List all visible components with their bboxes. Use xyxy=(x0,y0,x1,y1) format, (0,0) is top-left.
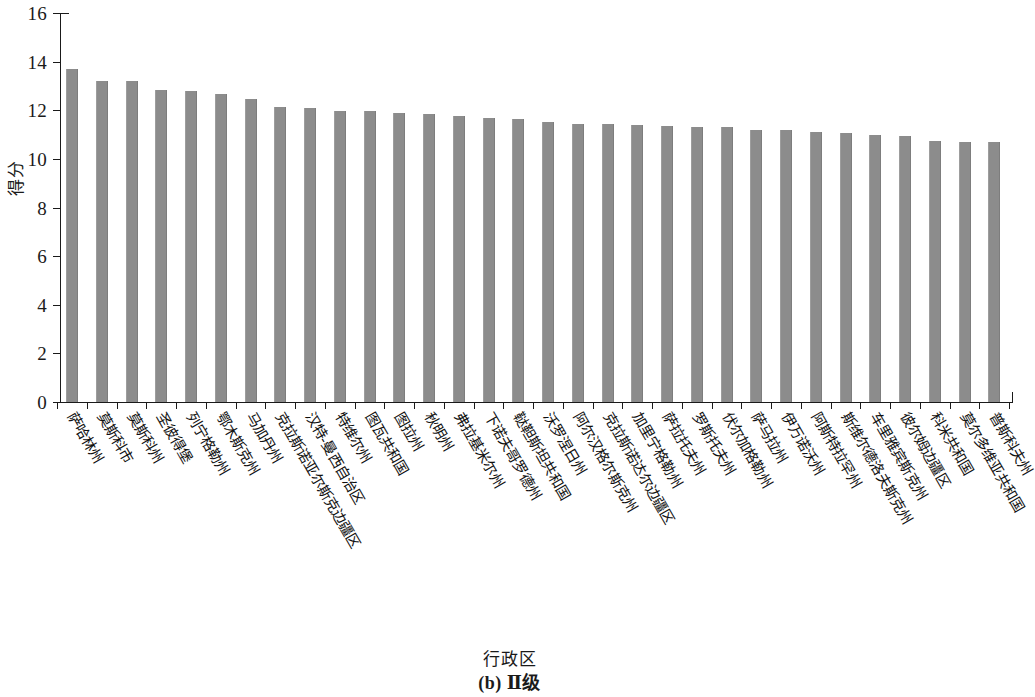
x-tick-mark xyxy=(533,402,534,409)
bar xyxy=(542,122,554,402)
bar xyxy=(572,124,584,402)
x-tick-mark xyxy=(979,402,980,409)
x-tick-mark xyxy=(295,402,296,409)
bar xyxy=(215,94,227,402)
x-tick-mark xyxy=(712,402,713,409)
y-tick-label: 16 xyxy=(27,4,47,23)
bar xyxy=(899,136,911,402)
x-tick-mark xyxy=(771,402,772,409)
bar xyxy=(453,116,465,402)
x-axis-title: 行政区 xyxy=(0,645,1019,670)
x-tick-mark xyxy=(920,402,921,409)
bar xyxy=(810,132,822,402)
y-tick-label: 6 xyxy=(37,247,47,266)
bar xyxy=(929,141,941,402)
bar xyxy=(661,126,673,402)
bar xyxy=(840,133,852,402)
y-tick-label: 12 xyxy=(27,101,47,120)
x-tick-mark xyxy=(741,402,742,409)
x-tick-mark xyxy=(57,402,58,409)
x-tick-mark xyxy=(236,402,237,409)
x-tick-mark xyxy=(265,402,266,409)
x-tick-mark xyxy=(176,402,177,409)
bar xyxy=(304,108,316,402)
x-tick-mark xyxy=(1009,402,1010,409)
bar xyxy=(483,118,495,402)
bar xyxy=(602,124,614,402)
x-tick-mark xyxy=(682,402,683,409)
bar xyxy=(512,119,524,402)
bar xyxy=(66,69,78,402)
bar xyxy=(959,142,971,402)
y-tick-label: 0 xyxy=(37,393,47,412)
x-tick-mark xyxy=(146,402,147,409)
x-tick-mark xyxy=(206,402,207,409)
y-tick-label: 2 xyxy=(37,344,47,363)
x-tick-mark xyxy=(801,402,802,409)
x-axis-line xyxy=(60,402,1013,403)
plot-area xyxy=(60,13,1012,402)
figure-caption: (b) Ⅱ级 xyxy=(0,668,1019,694)
x-tick-mark xyxy=(384,402,385,409)
bar xyxy=(364,111,376,402)
x-tick-mark xyxy=(325,402,326,409)
y-tick-label: 14 xyxy=(27,53,47,72)
y-tick-label: 10 xyxy=(27,150,47,169)
bar xyxy=(126,81,138,402)
bar xyxy=(155,90,167,402)
x-tick-mark xyxy=(622,402,623,409)
x-tick-mark xyxy=(563,402,564,409)
bar xyxy=(393,113,405,402)
bar xyxy=(988,142,1000,402)
bar xyxy=(334,111,346,402)
x-tick-mark xyxy=(87,402,88,409)
bar xyxy=(750,130,762,402)
bar xyxy=(780,130,792,402)
y-axis-title: 得分 xyxy=(2,160,27,196)
x-tick-mark xyxy=(355,402,356,409)
bar xyxy=(185,91,197,402)
bar xyxy=(423,114,435,402)
y-tick-label: 4 xyxy=(37,296,47,315)
x-tick-mark xyxy=(474,402,475,409)
bar xyxy=(869,135,881,402)
y-tick-label: 8 xyxy=(37,199,47,218)
bar xyxy=(631,125,643,402)
bar xyxy=(274,107,286,402)
x-tick-mark xyxy=(950,402,951,409)
bar xyxy=(245,99,257,402)
x-tick-mark xyxy=(503,402,504,409)
bar xyxy=(691,127,703,402)
x-tick-mark xyxy=(652,402,653,409)
x-tick-mark xyxy=(890,402,891,409)
x-tick-mark xyxy=(414,402,415,409)
bar xyxy=(96,81,108,402)
x-tick-mark xyxy=(444,402,445,409)
x-axis-right-cap xyxy=(1012,392,1013,403)
x-tick-mark xyxy=(860,402,861,409)
x-tick-mark xyxy=(831,402,832,409)
x-tick-mark xyxy=(593,402,594,409)
x-tick-mark xyxy=(117,402,118,409)
bar xyxy=(721,127,733,402)
